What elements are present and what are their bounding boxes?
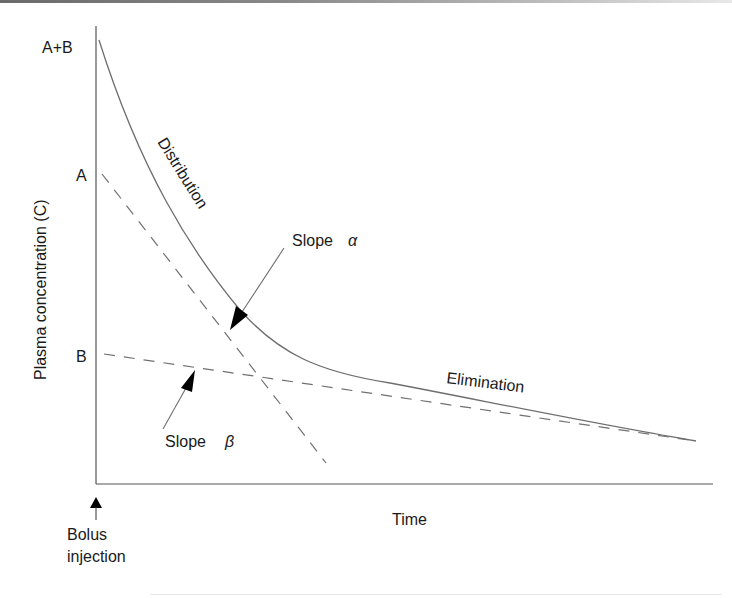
bolus-label-line1: Bolus xyxy=(67,526,107,543)
bolus-label-line2: injection xyxy=(67,548,126,565)
slope-alpha-annotation: Slope α xyxy=(230,232,358,330)
slope-beta-word: Slope xyxy=(165,433,206,450)
elimination-label: Elimination xyxy=(446,369,526,395)
slope-beta-symbol: β xyxy=(224,433,234,450)
distribution-label: Distribution xyxy=(154,135,211,212)
slope-beta-leader xyxy=(163,388,186,429)
slope-beta-arrowhead-icon xyxy=(181,370,195,392)
slope-alpha-arrowhead-icon xyxy=(230,306,248,330)
x-axis-label: Time xyxy=(392,511,427,528)
slope-alpha-dashed-line xyxy=(102,174,326,463)
slope-alpha-word: Slope xyxy=(292,232,333,249)
y-tick-b: B xyxy=(76,348,87,365)
y-tick-a-plus-b: A+B xyxy=(42,39,73,56)
bolus-injection-marker: Bolus injection xyxy=(67,497,126,565)
slope-beta-annotation: Slope β xyxy=(163,370,234,450)
slope-beta-dashed-line xyxy=(104,354,696,441)
slope-alpha-leader xyxy=(242,248,284,312)
y-tick-a: A xyxy=(76,167,87,184)
axes xyxy=(96,26,713,484)
slope-alpha-symbol: α xyxy=(348,232,358,249)
y-axis-label: Plasma concentration (C) xyxy=(32,199,49,380)
bolus-arrow-icon xyxy=(90,497,102,508)
pharmacokinetic-diagram: A+B A B Plasma concentration (C) Time Di… xyxy=(0,0,732,598)
